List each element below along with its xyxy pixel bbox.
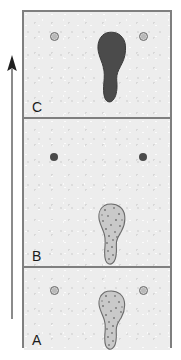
spot-solid-left-b	[50, 153, 58, 161]
plate-frame: C	[22, 10, 172, 348]
sole-mark-speckled-b	[94, 203, 128, 265]
spot-solid-right-b	[139, 153, 147, 161]
panel-a: A	[24, 266, 170, 350]
panel-label-c: C	[32, 100, 43, 114]
panel-label-a: A	[32, 333, 42, 347]
spot-ring-right-a	[139, 286, 148, 295]
spot-ring-left-c	[50, 32, 59, 41]
panel-c: C	[24, 12, 170, 117]
panel-b: B	[24, 117, 170, 266]
sole-mark-dark-c	[94, 31, 128, 103]
sole-mark-speckled-a	[94, 290, 128, 350]
figure-canvas: C	[0, 0, 181, 360]
direction-arrow	[4, 55, 20, 325]
panel-label-b: B	[32, 249, 42, 263]
spot-ring-left-a	[50, 286, 59, 295]
spot-ring-right-c	[139, 32, 148, 41]
